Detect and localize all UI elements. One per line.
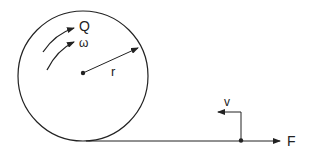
torque-label: Q: [79, 18, 90, 34]
angular-velocity-label: ω: [79, 36, 88, 50]
angular-velocity-arc-arrow: [47, 42, 74, 70]
velocity-label: v: [224, 95, 230, 109]
force-label: F: [287, 133, 296, 149]
diagram-canvas: Q ω r v F: [0, 0, 310, 153]
radius-label: r: [111, 64, 116, 79]
velocity-arrow: [218, 112, 241, 140]
torque-arc-arrow: [43, 28, 74, 52]
